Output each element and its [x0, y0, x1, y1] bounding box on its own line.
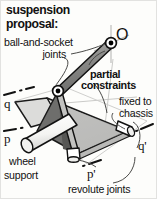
label-fixed-line2: chassis: [119, 108, 153, 119]
ball-and-socket-joint-upper: [106, 38, 117, 49]
label-axis-q: q: [4, 97, 10, 111]
label-axis-p-prime: p': [87, 167, 95, 181]
label-wheel-line2: support: [4, 170, 38, 181]
label-revolute-joints: revolute joints: [68, 184, 130, 195]
figure-canvas: suspension proposal: ball-and-socket joi…: [0, 0, 157, 199]
label-point-O: O: [116, 27, 128, 44]
label-partial-line2: constraints: [81, 80, 136, 91]
label-fixed-line1: fixed to: [119, 96, 152, 107]
axis-line-q: [4, 87, 34, 95]
label-ball-and-socket-line2: joints: [4, 49, 66, 60]
ball-and-socket-joint-lower: [53, 86, 64, 97]
figure-title-line2: proposal:: [6, 18, 58, 31]
label-axis-p: p: [4, 132, 10, 146]
leader-revolute-bottom: [113, 157, 135, 183]
label-ball-and-socket-line1: ball-and-socket: [4, 37, 73, 48]
figure-title-line1: suspension: [6, 4, 70, 17]
label-wheel-line1: wheel: [9, 156, 36, 167]
label-axis-q-prime: q': [138, 139, 146, 153]
